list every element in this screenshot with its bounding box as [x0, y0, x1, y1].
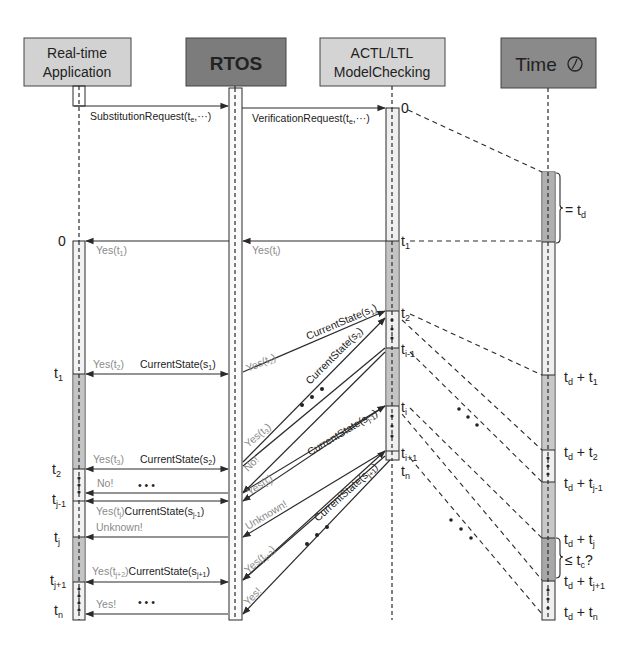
participant-label: ACTL/LTL	[351, 45, 414, 61]
mc-tick-ti+1: ti+1	[401, 445, 417, 463]
label-currentstate-s1: CurrentState(s1)	[304, 301, 379, 343]
time-label-td: = td	[565, 202, 586, 220]
label-yes-t2: Yes(t2)	[244, 351, 278, 375]
svg-text:Yes(t1): Yes(t1)	[96, 244, 127, 257]
message-verification-request: VerificationRequest(te,···)	[242, 108, 385, 125]
app-tick-tj: tj	[54, 529, 60, 547]
time-label-td-t1: td + t1	[564, 369, 598, 387]
svg-text:VerificationRequest(te,···): VerificationRequest(te,···)	[252, 112, 370, 125]
label-currentstate-si-1: CurrentState(sj-1)	[305, 406, 380, 459]
diagonal-dots	[300, 387, 329, 546]
time-label-td-tj+1: td + tj+1	[564, 573, 605, 591]
mc-tick-t1: t1	[401, 233, 410, 251]
time-label-td-t2: td + t2	[564, 444, 598, 462]
label-unknown: Unknown!	[243, 497, 289, 531]
app-tick-t2: t2	[52, 461, 61, 479]
ellipsis-dots	[449, 407, 479, 540]
svg-text:Yes(tj+2)CurrentState(sj+1): Yes(tj+2)CurrentState(sj+1)	[92, 565, 210, 579]
participant-realtime-application: Real-time Application	[24, 38, 131, 86]
label-yes-tj2: Yes(tj+2)	[241, 542, 278, 577]
participant-label: RTOS	[210, 53, 262, 74]
message-yes-final: Yes! • • •	[86, 596, 228, 614]
brace-tc	[556, 538, 563, 578]
message-no: No! • • •	[86, 477, 228, 493]
svg-text:CurrentState(s1): CurrentState(s1)	[140, 358, 216, 371]
message-yes-tj2-currentstate-sj+1: Yes(tj+2)CurrentState(sj+1)	[86, 565, 228, 582]
participant-model-checking: ACTL/LTL ModelChecking	[320, 38, 445, 86]
participant-label: Time	[515, 54, 557, 75]
message-yes-t2-currentstate-s1: Yes(t2) CurrentState(s1)	[86, 358, 228, 374]
time-label-td-tn: td + tn	[564, 604, 598, 622]
svg-text:CurrentState(s2): CurrentState(s2)	[140, 453, 216, 466]
participant-label: Application	[43, 64, 112, 80]
svg-text:• • •: • • •	[138, 479, 155, 491]
app-tick-tn: tn	[54, 602, 63, 620]
participant-label: ModelChecking	[334, 64, 431, 80]
participant-label: Real-time	[47, 45, 107, 61]
message-yes-tj-currentstate-sj-1: Yes(tj)CurrentState(sj-1)	[86, 501, 228, 519]
label-currentstate-si+1: CurrentState(sj+1)	[311, 460, 381, 525]
app-tick-0: 0	[58, 233, 66, 249]
app-tick-tj-1: tj-1	[52, 491, 66, 509]
label-no: No!	[241, 453, 261, 473]
time-label-le-tc: ≤ tc?	[565, 552, 593, 570]
mc-tick-0: 0	[401, 100, 409, 116]
participant-rtos: RTOS	[186, 38, 286, 86]
svg-text:No!: No!	[97, 477, 113, 489]
message-yes-t3-currentstate-s2: Yes(t3) CurrentState(s2)	[86, 453, 228, 469]
time-label-td-tj-1: td + tj-1	[564, 475, 603, 493]
app-tick-t1: t1	[54, 365, 63, 383]
svg-text:• • •: • • •	[138, 596, 155, 608]
svg-text:Yes!: Yes!	[96, 598, 116, 610]
label-yes-final: Yes!	[241, 585, 264, 608]
svg-text:Unknown!: Unknown!	[96, 521, 143, 533]
svg-text:Yes(tj)CurrentState(sj-1): Yes(tj)CurrentState(sj-1)	[96, 505, 204, 519]
participant-time: Time	[501, 38, 596, 88]
message-substitution-request: SubstitutionRequest(te,···)	[74, 106, 228, 123]
svg-text:SubstitutionRequest(te,···): SubstitutionRequest(te,···)	[90, 110, 211, 123]
svg-text:Yes(t3): Yes(t3)	[93, 453, 124, 466]
mc-tick-tn: tn	[401, 463, 410, 481]
sequence-diagram: Real-time Application RTOS ACTL/LTL Mode…	[0, 0, 637, 655]
svg-text:Yes(ti): Yes(ti)	[252, 244, 281, 257]
brace-td	[556, 173, 563, 243]
time-label-td-tj: td + tj	[564, 531, 595, 549]
mc-tick-ti-1: ti-1	[401, 341, 415, 359]
message-unknown: Unknown!	[86, 521, 228, 537]
svg-text:Yes(t2): Yes(t2)	[93, 358, 124, 371]
app-tick-tj+1: tj+1	[50, 572, 66, 590]
